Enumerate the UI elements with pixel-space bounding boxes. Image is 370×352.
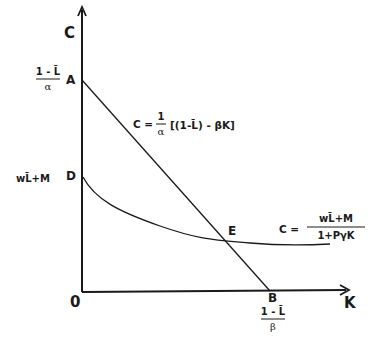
svg-text:[(1-L̄) - βK]: [(1-L̄) - βK] bbox=[170, 119, 235, 131]
point-A-label: A bbox=[66, 73, 76, 87]
svg-text:α: α bbox=[45, 81, 52, 92]
diagram-figure: C K 0 A 1 - L̄ α D wL̄+M E B 1 - L̄ β C … bbox=[0, 0, 370, 352]
svg-text:C =: C = bbox=[133, 118, 153, 130]
y-axis-label: C bbox=[64, 24, 75, 42]
x-axis bbox=[82, 285, 349, 295]
svg-text:1 - L̄: 1 - L̄ bbox=[36, 65, 61, 77]
svg-text:β: β bbox=[270, 321, 276, 332]
svg-text:α: α bbox=[158, 126, 165, 137]
point-D-label: D bbox=[66, 169, 76, 183]
budget-line-AB bbox=[82, 80, 270, 291]
line-equation: C = 1 α [(1-L̄) - βK] bbox=[133, 111, 235, 137]
origin-label: 0 bbox=[70, 293, 80, 311]
curve-equation: C = wL̄+M 1+PγK bbox=[279, 212, 365, 241]
A-intercept-value: 1 - L̄ α bbox=[36, 65, 61, 92]
svg-text:1: 1 bbox=[158, 111, 165, 122]
point-E-label: E bbox=[228, 224, 236, 238]
svg-text:wL̄+M: wL̄+M bbox=[319, 212, 353, 224]
D-intercept-value: wL̄+M bbox=[16, 172, 50, 184]
svg-text:1 - L̄: 1 - L̄ bbox=[261, 305, 286, 317]
svg-text:1+PγK: 1+PγK bbox=[317, 230, 355, 241]
svg-text:C =: C = bbox=[279, 223, 299, 235]
x-axis-label: K bbox=[344, 294, 357, 312]
B-intercept-value: 1 - L̄ β bbox=[261, 305, 286, 332]
point-B-label: B bbox=[268, 291, 277, 305]
y-axis bbox=[78, 7, 86, 292]
